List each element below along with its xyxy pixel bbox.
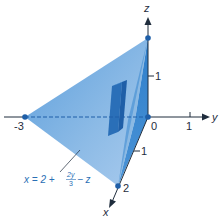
plane-equation: x = 2 + 2y 3 − z [23,171,91,187]
z-arrow-icon [145,17,152,25]
y-1-label: 1 [186,120,192,132]
origin-label: 0 [151,120,157,132]
y-intercept-dot [22,114,28,120]
x-intercept-dot [115,183,121,189]
x-arrow-icon [109,199,116,208]
equation-leader [60,150,80,172]
plane-diagram: z y x 0 -3 1 1 1 2 x = 2 + 2y 3 − z [0,0,220,218]
equation-lhs: x = 2 + [23,174,55,185]
equation-rhs: − z [77,174,91,185]
x-axis-label: x [102,206,109,218]
z-intercept-dot [145,35,151,41]
y-neg3-label: -3 [14,120,24,132]
equation-frac-num: 2y [66,171,75,179]
z-1-label: 1 [155,70,161,82]
plane-face [25,38,148,186]
z-axis-label: z [143,2,150,14]
equation-frac-den: 3 [69,180,73,187]
x-2-label: 2 [123,182,129,194]
y-axis-label: y [211,111,219,123]
x-1-label: 1 [141,145,147,157]
y-arrow-icon [202,114,210,121]
origin-dot [145,114,151,120]
